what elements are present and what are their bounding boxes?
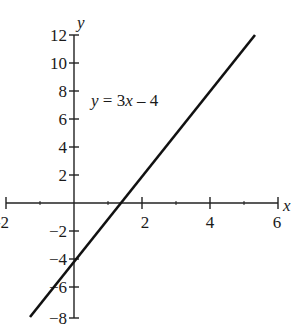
y-tick-label: 2	[59, 166, 68, 185]
y-axis-label: y	[75, 13, 85, 32]
y-tick-label: 6	[59, 110, 68, 129]
chart-canvas: -2 2 4 6 x 12 10 8 6 4 2 −2 −4 −6 −8 y y…	[0, 0, 298, 329]
y-tick-label: 8	[59, 82, 68, 101]
x-axis-label: x	[282, 196, 291, 215]
equation-label: y = 3x – 4	[89, 91, 159, 110]
y-tick-label: −2	[49, 222, 67, 241]
x-tick-label: 6	[273, 213, 282, 232]
y-tick-label: −4	[49, 250, 68, 269]
x-tick-label: 4	[206, 213, 215, 232]
x-tick-label: -2	[0, 213, 9, 232]
y-tick-label: −8	[49, 309, 67, 328]
x-tick-label: 2	[141, 213, 150, 232]
y-axis: 12 10 8 6 4 2 −2 −4 −6 −8 y	[49, 13, 85, 328]
y-tick-label: 10	[50, 54, 67, 73]
y-tick-label: 12	[50, 26, 67, 45]
y-tick-label: 4	[59, 138, 68, 157]
x-axis: -2 2 4 6 x	[0, 196, 291, 232]
